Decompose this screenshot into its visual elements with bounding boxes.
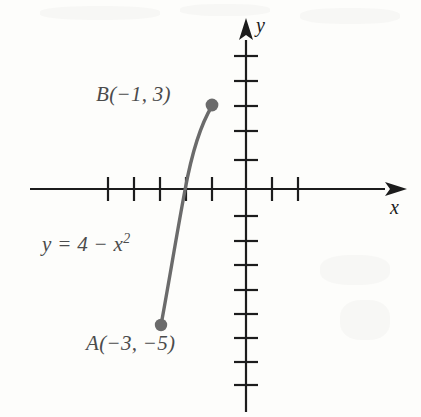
point-a-marker — [155, 319, 167, 331]
point-b-marker — [206, 99, 219, 112]
coordinate-plane — [0, 0, 421, 417]
equation-lead: y = 4 − x — [42, 232, 123, 256]
equation-label: y = 4 − x2 — [42, 234, 130, 255]
y-axis-label: y — [256, 15, 265, 35]
x-axis-arrowhead — [385, 182, 407, 196]
graph-figure: B(−1, 3) A(−3, −5) y = 4 − x2 x y — [0, 0, 421, 417]
equation-exponent: 2 — [123, 231, 130, 246]
parabola-curve — [161, 106, 212, 325]
x-axis-label: x — [390, 197, 399, 217]
y-axis-arrowhead — [239, 18, 253, 40]
point-a-label: A(−3, −5) — [86, 333, 175, 354]
point-b-label: B(−1, 3) — [96, 84, 171, 105]
